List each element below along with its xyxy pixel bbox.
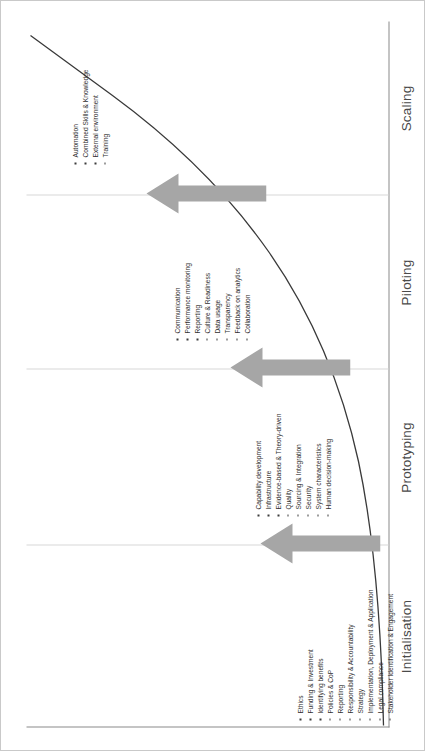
bullet-list-piloting: Communication Performance monitoring Rep… (172, 263, 252, 341)
list-item: Combined Skills & Knowledge (80, 69, 89, 165)
list-item: Infrastructure (263, 413, 272, 517)
bullet-items-piloting: Communication Performance monitoring Rep… (172, 263, 251, 341)
diagram-canvas: Ethics Funding & Investment Identifying … (0, 0, 425, 751)
bullet-items-initialisation: Ethics Funding & Investment Identifying … (295, 589, 394, 721)
list-item: Human decision-making (323, 413, 332, 517)
rotated-diagram-wrapper: Ethics Funding & Investment Identifying … (0, 0, 425, 751)
list-item: Sourcing & Integration (293, 413, 302, 517)
list-item: Reporting (192, 263, 201, 341)
list-item: Security (303, 413, 312, 517)
list-item: Capability development (253, 413, 262, 517)
list-item: Data usage (212, 263, 221, 341)
list-item: Culture & Readiness (202, 263, 211, 341)
bullet-list-initialisation: Ethics Funding & Investment Identifying … (295, 589, 395, 721)
list-item: Quality (283, 413, 292, 517)
list-item: Communication (172, 263, 181, 341)
stage-label-piloting: Piloting (398, 259, 413, 305)
list-item: Ethics (295, 589, 304, 721)
list-item: Strategy (355, 589, 364, 721)
figure-container: Ethics Funding & Investment Identifying … (0, 0, 425, 751)
arrow-prototyping-to-piloting (228, 345, 350, 389)
list-item: Policies & CoP (325, 589, 334, 721)
list-item: Automation (70, 69, 79, 165)
list-item: Responsibility & Accountability (345, 589, 354, 721)
list-item: Funding & Investment (305, 589, 314, 721)
list-item: Feedback on analytics (232, 263, 241, 341)
list-item: Identifying benefits (315, 589, 324, 721)
list-item: Performance monitoring (182, 263, 191, 341)
bullet-list-prototyping: Capability development Infrastructure Ev… (253, 413, 333, 517)
list-item: Reporting (335, 589, 344, 721)
arrow-initialisation-to-prototyping (258, 521, 380, 565)
list-item: Stakeholder Identification & Engagement (385, 589, 394, 721)
list-item: System characteristics (313, 413, 322, 517)
bullet-items-prototyping: Capability development Infrastructure Ev… (253, 413, 332, 517)
list-item: Transparency (222, 263, 231, 341)
stage-label-scaling: Scaling (398, 85, 413, 131)
bullet-list-scaling: Automation Combined Skills & Knowledge E… (70, 69, 110, 165)
list-item: Evidence-based & Theory-driven (273, 413, 282, 517)
list-item: Collaboration (242, 263, 251, 341)
stage-label-prototyping: Prototyping (398, 422, 413, 493)
list-item: External environment (90, 69, 99, 165)
arrow-piloting-to-scaling (144, 171, 266, 215)
stage-label-initialisation: Initialisation (398, 599, 413, 672)
list-item: Training (100, 69, 109, 165)
list-item: Legal compliance (375, 589, 384, 721)
list-item: Implementation, Deployment & Application (365, 589, 374, 721)
bullet-items-scaling: Automation Combined Skills & Knowledge E… (70, 69, 109, 165)
